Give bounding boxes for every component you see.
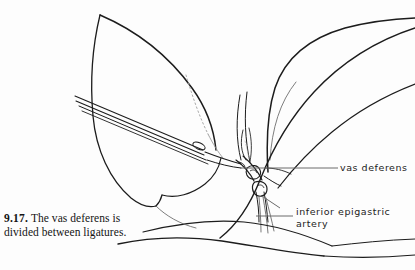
label-inferior-epigastric-line2: artery <box>296 218 328 229</box>
label-inferior-epigastric-artery: inferior epigastric artery <box>296 206 390 229</box>
inferior-epigastric-vessels <box>237 92 251 162</box>
ligature-knot-distal <box>252 181 267 196</box>
figure-9-17: vas deferens inferior epigastric artery … <box>0 0 415 270</box>
surgical-forceps <box>75 96 245 168</box>
figure-number: 9.17. <box>4 212 28 224</box>
label-vas-deferens: vas deferens <box>340 162 408 174</box>
figure-caption: 9.17. The vas deferens is divided betwee… <box>4 212 132 239</box>
label-inferior-epigastric-line1: inferior epigastric <box>296 206 390 217</box>
forceps-pivot <box>192 141 206 152</box>
